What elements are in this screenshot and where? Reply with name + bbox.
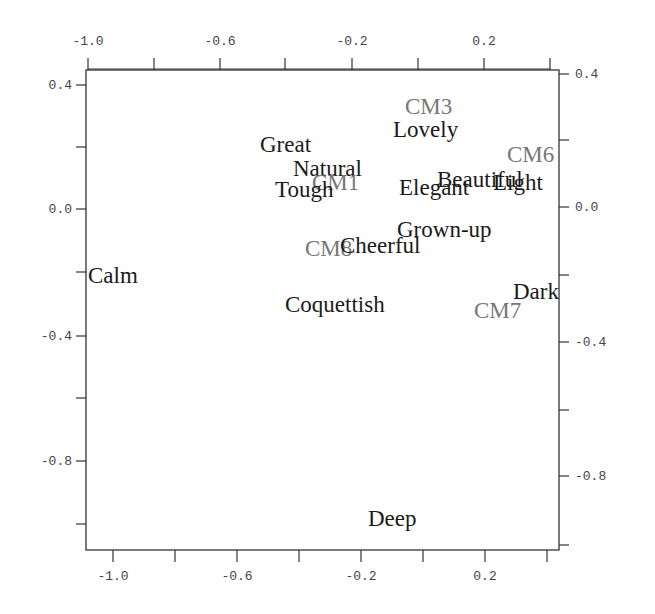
left-axis-tick-label: -0.4 [41, 329, 72, 344]
point-label-calm: Calm [88, 263, 138, 288]
point-label-cm3: CM3 [405, 94, 452, 119]
point-label-cm7: CM7 [474, 298, 521, 323]
top-axis-tick-label: -1.0 [72, 34, 103, 49]
left-axis-tick-label: -0.8 [41, 454, 72, 469]
left-axis-tick-label: 0.4 [49, 78, 73, 93]
point-labels: CM3LovelyGreatCM6NaturalCM1ToughBeautifu… [88, 94, 559, 531]
right-axis-tick-label: 0.4 [575, 67, 599, 82]
point-label-cheerful: Cheerful [340, 233, 420, 258]
right-axis-tick-label: -0.8 [575, 469, 606, 484]
left-axis-tick-label: 0.0 [49, 202, 72, 217]
point-label-coquettish: Coquettish [285, 292, 385, 317]
top-axis-tick-label: -0.2 [336, 34, 367, 49]
bottom-axis-tick-label: 0.2 [473, 569, 496, 584]
point-label-deep: Deep [368, 506, 417, 531]
point-label-cm6: CM6 [507, 142, 554, 167]
right-axis-tick-label: 0.0 [575, 200, 598, 215]
top-axis-tick-label: -0.6 [204, 34, 235, 49]
bottom-axis-tick-label: -0.2 [345, 569, 376, 584]
point-label-lovely: Lovely [393, 117, 459, 142]
point-label-light: Light [493, 170, 543, 195]
point-label-elegant: Elegant [399, 175, 470, 200]
bottom-axis-tick-label: -1.0 [97, 569, 128, 584]
top-axis-tick-label: 0.2 [472, 34, 495, 49]
right-axis-tick-label: -0.4 [575, 335, 606, 350]
point-label-great: Great [260, 132, 312, 157]
bottom-axis-tick-label: -0.6 [221, 569, 252, 584]
point-label-tough: Tough [275, 177, 334, 202]
biplot-chart: -1.0-0.6-0.20.2-1.0-0.6-0.20.20.40.0-0.4… [0, 0, 655, 614]
